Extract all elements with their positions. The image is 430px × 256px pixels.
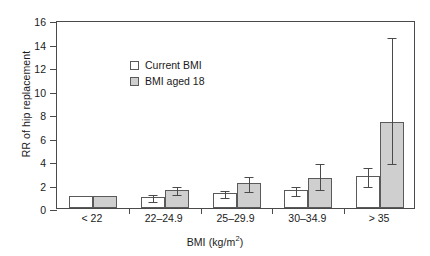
error-bar-line-current-bmi-3 xyxy=(296,187,297,196)
y-axis-title: RR of hip replacement xyxy=(20,14,32,194)
legend-label-current-bmi: Current BMI xyxy=(145,58,202,72)
error-bar-cap-upper-current-bmi-2 xyxy=(220,191,229,192)
y-tick-label-8: 8 xyxy=(40,116,46,117)
x-category-label-0: < 22 xyxy=(82,212,103,224)
y-tick-label-0: 0 xyxy=(40,210,46,211)
error-bar-cap-upper-bmi-aged-18-1 xyxy=(172,187,181,188)
legend-item-current-bmi: Current BMI xyxy=(130,58,205,72)
y-tick-8 xyxy=(50,116,57,117)
y-tick-4 xyxy=(50,163,57,164)
x-category-label-1: 22–24.9 xyxy=(145,212,183,224)
error-bar-line-current-bmi-4 xyxy=(368,168,369,187)
legend-label-bmi-aged-18: BMI aged 18 xyxy=(145,74,205,88)
error-bar-cap-lower-bmi-aged-18-4 xyxy=(388,164,397,165)
y-tick-12 xyxy=(50,69,57,70)
chart-legend: Current BMI BMI aged 18 xyxy=(130,58,205,90)
error-bar-cap-lower-current-bmi-4 xyxy=(364,187,373,188)
bar-bmi-aged-18-0 xyxy=(93,196,117,208)
error-bar-cap-upper-current-bmi-4 xyxy=(364,168,373,169)
hip-replacement-bmi-bar-chart: RR of hip replacement 0246810121416 Curr… xyxy=(0,0,430,256)
error-bar-cap-upper-current-bmi-1 xyxy=(148,195,157,196)
error-bar-line-bmi-aged-18-2 xyxy=(249,177,250,193)
error-bar-cap-lower-current-bmi-2 xyxy=(220,198,229,199)
error-bar-cap-lower-current-bmi-1 xyxy=(148,202,157,203)
y-tick-label-12: 12 xyxy=(34,69,46,70)
legend-swatch-bmi-aged-18 xyxy=(130,77,139,86)
y-tick-10 xyxy=(50,93,57,94)
y-tick-label-16: 16 xyxy=(34,22,46,23)
legend-swatch-current-bmi xyxy=(130,61,139,70)
y-tick-0 xyxy=(50,210,57,211)
x-axis-title-base: BMI (kg/m xyxy=(187,236,236,248)
plot-area: 0246810121416 Current BMI BMI aged 18 xyxy=(56,21,415,209)
x-tick-3 xyxy=(272,208,273,214)
x-tick-4 xyxy=(344,208,345,214)
error-bar-cap-lower-bmi-aged-18-3 xyxy=(316,190,325,191)
error-bar-cap-lower-bmi-aged-18-2 xyxy=(244,192,253,193)
x-tick-2 xyxy=(201,208,202,214)
error-bar-line-current-bmi-2 xyxy=(225,191,226,198)
error-bar-line-bmi-aged-18-4 xyxy=(392,38,393,164)
x-tick-1 xyxy=(129,208,130,214)
error-bar-cap-lower-current-bmi-3 xyxy=(292,196,301,197)
legend-item-bmi-aged-18: BMI aged 18 xyxy=(130,74,205,88)
x-category-label-3: 30–34.9 xyxy=(288,212,326,224)
error-bar-cap-upper-bmi-aged-18-2 xyxy=(244,177,253,178)
x-category-label-4: > 35 xyxy=(369,212,390,224)
y-tick-label-4: 4 xyxy=(40,163,46,164)
error-bar-cap-upper-bmi-aged-18-4 xyxy=(388,38,397,39)
y-tick-16 xyxy=(50,22,57,23)
error-bar-cap-lower-bmi-aged-18-1 xyxy=(172,195,181,196)
x-axis-title-close: ) xyxy=(240,236,244,248)
bar-current-bmi-0 xyxy=(69,196,93,208)
y-tick-label-10: 10 xyxy=(34,93,46,94)
y-tick-14 xyxy=(50,46,57,47)
error-bar-cap-upper-bmi-aged-18-3 xyxy=(316,164,325,165)
y-tick-6 xyxy=(50,140,57,141)
y-tick-label-2: 2 xyxy=(40,187,46,188)
y-tick-2 xyxy=(50,187,57,188)
error-bar-line-bmi-aged-18-3 xyxy=(320,164,321,190)
y-tick-label-6: 6 xyxy=(40,140,46,141)
x-axis-title: BMI (kg/m2) xyxy=(0,234,430,248)
x-category-label-2: 25–29.9 xyxy=(217,212,255,224)
error-bar-line-bmi-aged-18-1 xyxy=(177,187,178,195)
y-tick-label-14: 14 xyxy=(34,46,46,47)
error-bar-cap-upper-current-bmi-3 xyxy=(292,187,301,188)
